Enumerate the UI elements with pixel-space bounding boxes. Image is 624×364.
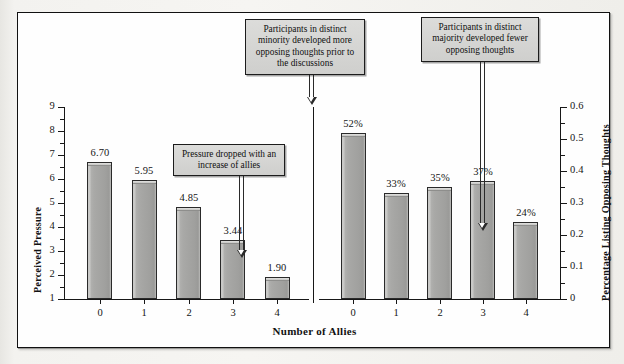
right-y-tick-label: 0.3 [570, 197, 594, 207]
left-y-tick-major [58, 299, 64, 300]
bar-value-label: 35% [418, 172, 462, 183]
panel-divider [313, 107, 314, 303]
right-y-tick-minor [561, 155, 565, 156]
bar-right-1[interactable] [384, 193, 409, 299]
right-y-tick-major [561, 203, 567, 204]
left-y-tick-major [58, 155, 64, 156]
right-y-tick-major [561, 299, 567, 300]
bar-value-label: 3.44 [211, 225, 255, 236]
x-tick-label: 4 [265, 307, 289, 318]
bar-value-label: 52% [331, 118, 375, 129]
left-y-tick-major [58, 179, 64, 180]
figure-frame: 9876543210.60.50.40.30.20.106.7005.9514.… [17, 12, 610, 348]
x-tick-label: 4 [514, 307, 538, 318]
right-y-tick-minor [561, 123, 565, 124]
right-y-tick-minor [561, 283, 565, 284]
right-y-tick-minor [561, 219, 565, 220]
x-tick [189, 300, 190, 304]
bar-value-label: 5.95 [122, 165, 166, 176]
x-tick-label: 1 [132, 307, 156, 318]
bar-left-4[interactable] [265, 277, 290, 299]
x-tick-label: 1 [384, 307, 408, 318]
right-y-tick-label: 0.5 [570, 133, 594, 143]
right-y-tick-minor [561, 187, 565, 188]
x-tick [233, 300, 234, 304]
bar-right-4[interactable] [513, 222, 538, 299]
left-y-tick-major [58, 203, 64, 204]
callout-majority[interactable]: Participants in distinct majority develo… [421, 17, 539, 62]
left-y-tick-minor [60, 263, 64, 264]
callout-pressure-arrow [239, 176, 244, 258]
right-y-tick-major [561, 171, 567, 172]
left-y-axis-title: Perceived Pressure [32, 207, 43, 293]
callout-minority-arrow [309, 75, 314, 105]
bar-right-0[interactable] [341, 133, 366, 299]
callout-pressure[interactable]: Pressure dropped with an increase of all… [173, 144, 285, 176]
left-y-tick-label: 6 [34, 173, 55, 183]
bar-value-label: 4.85 [167, 192, 211, 203]
left-y-axis-line [64, 107, 65, 300]
x-tick-label: 2 [177, 307, 201, 318]
right-y-axis-title: Percentage Listing Opposing Thoughts [600, 124, 611, 301]
left-y-tick-minor [60, 287, 64, 288]
x-tick [277, 300, 278, 304]
left-y-tick-minor [60, 191, 64, 192]
right-y-tick-major [561, 235, 567, 236]
left-y-tick-minor [60, 215, 64, 216]
x-tick [396, 300, 397, 304]
right-y-tick-label: 0.6 [570, 101, 594, 111]
x-tick [440, 300, 441, 304]
bar-value-label: 24% [504, 207, 548, 218]
left-y-tick-minor [60, 167, 64, 168]
bar-right-2[interactable] [427, 187, 452, 299]
right-y-tick-label: 0.2 [570, 229, 594, 239]
left-y-tick-minor [60, 143, 64, 144]
right-y-tick-label: 0.4 [570, 165, 594, 175]
left-y-tick-minor [60, 239, 64, 240]
x-tick-label: 0 [341, 307, 365, 318]
bar-value-label: 33% [374, 178, 418, 189]
left-y-tick-major [58, 251, 64, 252]
bar-left-0[interactable] [87, 162, 112, 299]
right-y-tick-label: 0 [570, 293, 594, 303]
left-y-tick-major [58, 107, 64, 108]
x-tick-label: 3 [471, 307, 495, 318]
x-tick-label: 2 [428, 307, 452, 318]
left-y-tick-major [58, 131, 64, 132]
x-axis-title: Number of Allies [18, 325, 611, 337]
chart-plot-area: 9876543210.60.50.40.30.20.106.7005.9514.… [18, 13, 611, 349]
right-y-tick-major [561, 139, 567, 140]
left-y-tick-label: 9 [34, 101, 55, 111]
x-tick [144, 300, 145, 304]
callout-minority[interactable]: Participants in distinct minority develo… [245, 19, 365, 75]
left-y-tick-label: 5 [34, 197, 55, 207]
x-tick [100, 300, 101, 304]
x-tick-label: 3 [221, 307, 245, 318]
right-y-tick-minor [561, 251, 565, 252]
x-tick [526, 300, 527, 304]
x-tick [353, 300, 354, 304]
right-y-tick-label: 0.1 [570, 261, 594, 271]
left-y-tick-major [58, 275, 64, 276]
left-y-tick-minor [60, 119, 64, 120]
callout-majority-arrow [480, 62, 485, 231]
left-y-tick-label: 7 [34, 149, 55, 159]
bar-value-label: 6.70 [78, 147, 122, 158]
left-y-tick-label: 8 [34, 125, 55, 135]
bar-left-2[interactable] [176, 207, 201, 299]
right-y-tick-major [561, 267, 567, 268]
bar-left-1[interactable] [132, 180, 157, 299]
x-tick-label: 0 [88, 307, 112, 318]
left-y-tick-major [58, 227, 64, 228]
right-y-tick-major [561, 107, 567, 108]
x-tick [483, 300, 484, 304]
bar-value-label: 1.90 [255, 262, 299, 273]
left-y-tick-label: 1 [34, 293, 55, 303]
